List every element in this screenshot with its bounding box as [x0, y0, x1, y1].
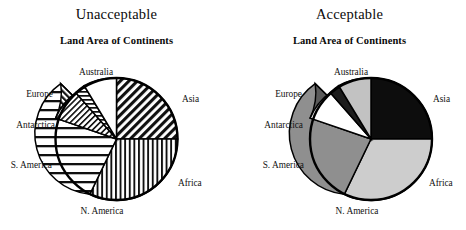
chart-panel-unacceptable: Unacceptable Land Area of Continents [0, 0, 233, 230]
pie-label-antarctica: Antarctica [247, 121, 303, 130]
chart-title-unacceptable: Land Area of Continents [0, 35, 233, 46]
pie-label-africa: Africa [178, 179, 202, 188]
pie-chart-acceptable [233, 55, 466, 230]
pie-label-australia: Australia [313, 68, 389, 77]
pie-label-africa: Africa [429, 179, 453, 188]
pie-label-n-america: N. America [68, 207, 136, 216]
chart-title-acceptable: Land Area of Continents [233, 35, 466, 46]
pie-label-antarctica: Antarctica [0, 121, 55, 130]
pie-label-s-america: S. America [251, 161, 304, 170]
pie-label-asia: Asia [433, 95, 450, 104]
pie-label-australia: Australia [58, 68, 134, 77]
pie-label-n-america: N. America [323, 207, 391, 216]
pie-stage-acceptable: Asia Africa N. America S. America Antarc… [233, 55, 466, 230]
pie-label-s-america: S. America [0, 161, 52, 170]
pie-label-asia: Asia [182, 95, 199, 104]
pie-stage-unacceptable: Asia Africa N. America S. America Antarc… [0, 55, 233, 230]
panel-heading-acceptable: Acceptable [233, 6, 466, 23]
chart-panel-acceptable: Acceptable Land Area of Continents Asia … [233, 0, 466, 230]
pie-label-europe: Europe [255, 90, 302, 99]
pie-label-europe: Europe [6, 90, 53, 99]
pie-chart-unacceptable [0, 55, 233, 230]
panel-heading-unacceptable: Unacceptable [0, 6, 233, 23]
